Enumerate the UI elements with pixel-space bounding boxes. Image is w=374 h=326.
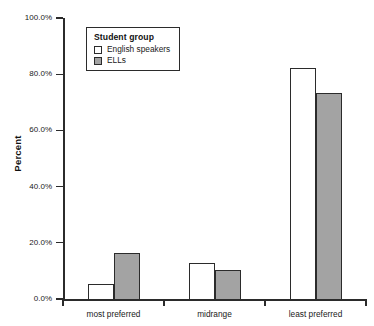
legend-title: Student group [94,32,170,42]
y-axis-tick-label: 20.0% [6,238,52,247]
y-axis-tick-label: 40.0% [6,182,52,191]
y-axis-tick-label: 100.0% [6,13,52,22]
y-axis-line [63,18,65,300]
legend-swatch-icon-english-speakers [94,46,102,54]
x-axis-tick [264,299,265,306]
x-axis-tick [62,299,63,306]
y-axis-tick [56,17,63,18]
legend-item-ells: ELLs [94,56,170,65]
y-axis-tick-label: 80.0% [6,69,52,78]
bar-least-preferred-english-speakers [290,68,316,300]
y-axis-tick [56,74,63,75]
x-axis-category-label: least preferred [289,309,343,319]
legend-item-english-speakers: English speakers [94,45,170,54]
legend-label-english-speakers: English speakers [107,45,170,54]
x-axis-tick [365,299,366,306]
x-axis-tick [163,299,164,306]
bar-most-preferred-ells [114,253,140,300]
y-axis-tick [56,186,63,187]
y-axis-tick-label: 0.0% [6,294,52,303]
bar-least-preferred-ells [316,93,342,300]
y-axis-tick [56,130,63,131]
bar-most-preferred-english-speakers [88,284,114,300]
legend-label-ells: ELLs [107,56,126,65]
legend-swatch-icon-ells [94,57,102,65]
x-axis-category-label: most preferred [87,309,141,319]
bar-midrange-ells [215,270,241,300]
bar-chart: Percent 0.0%20.0%40.0%60.0%80.0%100.0% m… [0,0,374,326]
y-axis-tick [56,242,63,243]
legend: Student group English speakers ELLs [86,27,180,71]
x-axis-category-label: midrange [197,309,232,319]
y-axis-tick-label: 60.0% [6,125,52,134]
bar-midrange-english-speakers [189,263,215,300]
